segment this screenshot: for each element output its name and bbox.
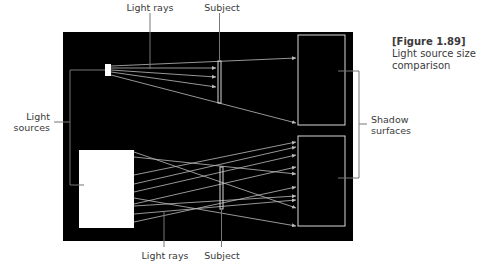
label-light-sources-line2: sources — [10, 122, 50, 133]
small-light-source — [105, 64, 111, 76]
caption-line1: Light source size — [392, 48, 476, 60]
label-subject-top: Subject — [204, 2, 240, 13]
label-light-sources: Light sources — [10, 111, 50, 133]
figure-number: [Figure 1.89] — [392, 36, 476, 48]
large-light-source — [79, 150, 134, 228]
label-shadow-surfaces-line2: surfaces — [371, 125, 411, 136]
label-shadow-surfaces-line1: Shadow — [371, 114, 411, 125]
caption-line2: comparison — [392, 60, 476, 72]
label-light-rays-bottom: Light rays — [141, 250, 188, 261]
label-light-rays-top: Light rays — [126, 2, 173, 13]
label-subject-bottom: Subject — [204, 250, 240, 261]
label-shadow-surfaces: Shadow surfaces — [371, 114, 411, 136]
label-light-sources-line1: Light — [10, 111, 50, 122]
figure-caption: [Figure 1.89] Light source size comparis… — [392, 36, 476, 72]
